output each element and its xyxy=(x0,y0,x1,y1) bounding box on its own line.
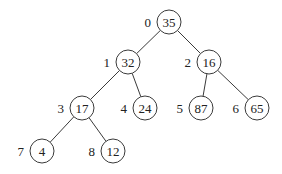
node-value: 4 xyxy=(39,144,46,159)
node-value: 32 xyxy=(122,55,135,70)
node-value: 24 xyxy=(139,101,153,116)
node-index-label: 8 xyxy=(89,144,96,159)
heap-node: 321 xyxy=(104,50,141,74)
node-index-label: 3 xyxy=(58,101,65,116)
node-index-label: 5 xyxy=(177,101,184,116)
node-value: 87 xyxy=(195,101,209,116)
heap-node: 173 xyxy=(58,96,95,120)
heap-node: 350 xyxy=(145,10,182,34)
node-value: 12 xyxy=(107,144,120,159)
node-index-label: 4 xyxy=(121,101,128,116)
node-value: 65 xyxy=(251,101,264,116)
node-index-label: 7 xyxy=(18,144,25,159)
heap-node: 875 xyxy=(177,96,214,120)
tree-edge xyxy=(177,30,200,53)
node-index-label: 2 xyxy=(185,55,192,70)
tree-edge xyxy=(137,30,161,53)
node-index-label: 1 xyxy=(104,55,111,70)
tree-edge xyxy=(132,73,141,96)
tree-edge xyxy=(50,117,74,142)
node-value: 17 xyxy=(76,101,90,116)
tree-nodes: 35032116217324487565647128 xyxy=(18,10,270,163)
node-index-label: 6 xyxy=(233,101,240,116)
heap-node: 128 xyxy=(89,139,126,163)
tree-edge xyxy=(89,118,106,142)
node-value: 16 xyxy=(203,55,217,70)
heap-node: 656 xyxy=(233,96,270,120)
node-index-label: 0 xyxy=(145,15,152,30)
node-value: 35 xyxy=(163,15,176,30)
tree-edge xyxy=(218,70,249,99)
tree-edges xyxy=(50,30,248,142)
tree-edge xyxy=(203,74,207,96)
heap-tree-diagram: 35032116217324487565647128 xyxy=(0,0,282,174)
heap-node: 162 xyxy=(185,50,222,74)
heap-node: 244 xyxy=(121,96,158,120)
tree-edge xyxy=(90,70,119,99)
heap-node: 47 xyxy=(18,139,55,163)
